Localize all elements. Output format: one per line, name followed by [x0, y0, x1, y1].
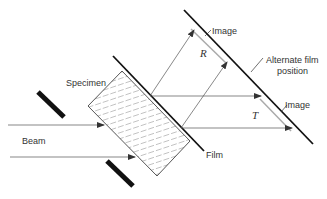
slit-top: [38, 92, 64, 117]
film-label: Film: [206, 150, 223, 160]
reflected-ray-lower: [181, 62, 227, 128]
slit-bottom: [107, 161, 133, 186]
image-label-bottom: Image: [285, 100, 310, 110]
reflected-label: R: [200, 48, 207, 58]
image-label-top: Image: [212, 26, 237, 36]
specimen-label: Specimen: [66, 78, 106, 88]
alternate-film-label-line1: Alternate film: [266, 55, 319, 65]
beam-label: Beam: [22, 136, 46, 146]
alternate-film-line: [184, 10, 313, 144]
diagram-graphics: [0, 0, 327, 199]
specimen: [80, 40, 200, 199]
diffraction-diagram: Specimen Beam Film Image Image Alternate…: [0, 0, 327, 199]
alternate-film-label-line2: position: [277, 66, 308, 76]
reflected-ray-upper: [150, 30, 194, 96]
transmitted-label: T: [252, 110, 258, 120]
